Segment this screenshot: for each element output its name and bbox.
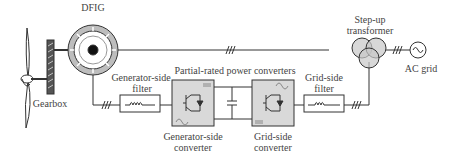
grid-side-filter-label-2: filter [300,83,348,94]
three-phase-mark [226,46,235,54]
ac-grid-label: AC grid [398,63,444,74]
gearbox-label: Gearbox [30,98,70,109]
three-phase-mark [102,101,111,109]
generator-side-filter-label-2: filter [122,83,162,94]
transformer-label-2: transformer [345,25,395,36]
partial-rated-converters-label: Partial-rated power converters [170,65,300,76]
grid-side-converter-label-1: Grid-side [248,131,298,142]
three-phase-mark [393,46,402,54]
inductor-icon [120,95,160,112]
gearbox-icon [47,40,54,94]
generator-side-converter-label-2: converter [160,142,226,153]
dfig-label: DFIG [76,2,110,13]
capacitor-icon [227,87,237,119]
generator-icon [68,25,118,75]
transformer-icon [352,38,386,68]
transformer-label-1: Step-up [345,14,395,25]
generator-side-converter-label-1: Generator-side [160,131,226,142]
grid-side-filter-label-1: Grid-side [300,72,348,83]
grid-side-converter-label-2: converter [248,142,298,153]
ac-source-icon [410,42,426,58]
generator-side-filter-label-1: Generator-side [110,72,172,83]
inductor-icon [304,95,344,112]
three-phase-mark [352,101,361,109]
